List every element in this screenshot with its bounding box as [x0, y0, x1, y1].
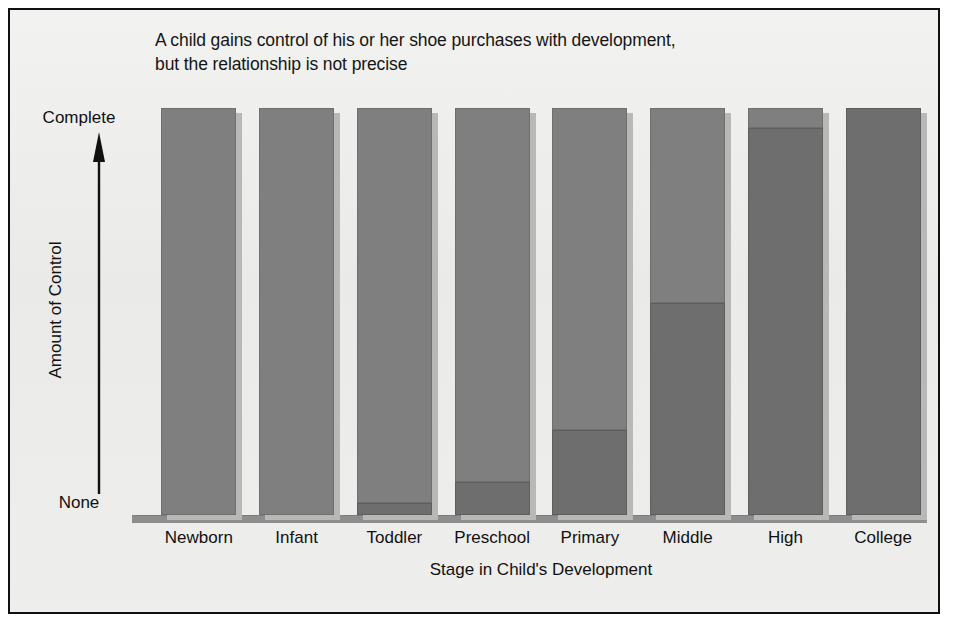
plot-area [150, 100, 932, 520]
bar-segment-child-control [650, 303, 725, 515]
bar-body [455, 108, 530, 515]
bar-segment-parent-control [455, 108, 530, 482]
bar-segment-child-control [846, 108, 921, 515]
bar-segment-parent-control [259, 108, 334, 515]
bar-body [748, 108, 823, 515]
bar-segment-parent-control [552, 108, 627, 430]
bar-segment-parent-control [748, 108, 823, 128]
x-axis-title: Stage in Child's Development [150, 560, 932, 580]
bar-body [846, 108, 921, 515]
bar-infant [259, 100, 334, 515]
bar-toddler [357, 100, 432, 515]
bar-body [259, 108, 334, 515]
bar-high [748, 100, 823, 515]
chart-title-line-2: but the relationship is not precise [155, 52, 855, 76]
y-axis-arrow-icon [92, 132, 106, 494]
x-tick-label-preschool: Preschool [443, 528, 541, 548]
bar-segment-child-control [357, 503, 432, 515]
bar-body [650, 108, 725, 515]
bar-body [552, 108, 627, 515]
figure-root: A child gains control of his or her shoe… [0, 0, 954, 628]
bar-newborn [161, 100, 236, 515]
x-tick-label-newborn: Newborn [150, 528, 248, 548]
bar-segment-parent-control [357, 108, 432, 503]
bar-segment-parent-control [650, 108, 725, 303]
y-axis-bottom-label: None [20, 493, 138, 513]
x-tick-label-middle: Middle [639, 528, 737, 548]
bar-body [161, 108, 236, 515]
bar-segment-parent-control [161, 108, 236, 515]
x-tick-label-high: High [737, 528, 835, 548]
bar-body [357, 108, 432, 515]
chart-title: A child gains control of his or her shoe… [155, 28, 855, 76]
bar-segment-child-control [455, 482, 530, 515]
bar-preschool [455, 100, 530, 515]
bar-segment-child-control [748, 128, 823, 515]
x-tick-label-toddler: Toddler [346, 528, 444, 548]
y-axis-title: Amount of Control [46, 210, 66, 410]
bar-segment-child-control [552, 430, 627, 515]
chart-title-line-1: A child gains control of his or her shoe… [155, 28, 855, 52]
bar-primary [552, 100, 627, 515]
bar-middle [650, 100, 725, 515]
y-axis-top-label: Complete [20, 108, 138, 128]
bar-college [846, 100, 921, 515]
x-tick-label-college: College [834, 528, 932, 548]
x-tick-label-infant: Infant [248, 528, 346, 548]
x-tick-label-primary: Primary [541, 528, 639, 548]
